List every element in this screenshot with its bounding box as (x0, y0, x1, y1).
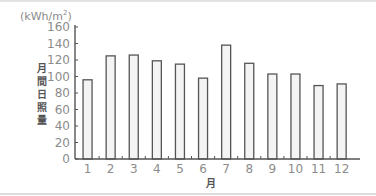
bar-month-9 (268, 74, 277, 159)
y-tick-label: 20 (55, 136, 70, 150)
y-tick-label: 160 (47, 20, 70, 34)
y-tick-label: 80 (55, 86, 70, 100)
x-tick-label: 3 (130, 162, 138, 176)
bar-month-7 (222, 45, 231, 159)
y-tick-label: 0 (62, 152, 70, 166)
x-tick-label: 5 (176, 162, 184, 176)
bar-month-6 (199, 78, 208, 159)
bar-month-1 (83, 80, 92, 159)
x-tick-label: 9 (269, 162, 277, 176)
y-tick-label: 100 (47, 70, 70, 84)
x-tick-label: 4 (153, 162, 161, 176)
bar-month-11 (314, 86, 323, 159)
bar-month-10 (291, 74, 300, 159)
bar-month-8 (245, 63, 254, 159)
x-tick-label: 8 (245, 162, 253, 176)
bar-chart: 020406080100120140160123456789101112 (0, 0, 376, 196)
y-tick-label: 140 (47, 37, 70, 51)
y-tick-label: 120 (47, 53, 70, 67)
bar-month-12 (337, 84, 346, 159)
bar-month-2 (106, 56, 115, 159)
x-tick-label: 7 (222, 162, 230, 176)
bar-month-5 (175, 64, 184, 159)
x-tick-label: 11 (311, 162, 326, 176)
x-tick-label: 10 (288, 162, 303, 176)
x-tick-label: 12 (334, 162, 349, 176)
x-tick-label: 6 (199, 162, 207, 176)
bar-month-3 (129, 55, 138, 159)
y-tick-label: 60 (55, 103, 70, 117)
bar-month-4 (152, 61, 161, 159)
y-tick-label: 40 (55, 119, 70, 133)
x-tick-label: 2 (107, 162, 115, 176)
x-tick-label: 1 (84, 162, 92, 176)
